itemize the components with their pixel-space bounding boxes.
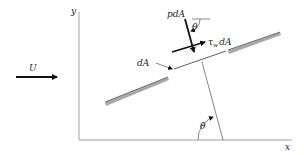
axes: y x [70, 6, 292, 152]
shear-force-arrow: τwdA [172, 37, 232, 52]
surface-element: dA [137, 51, 226, 69]
shear-force-label: τwdA [208, 37, 232, 48]
angle-top: θ [191, 19, 210, 32]
surface-plate-right [228, 32, 281, 54]
y-axis-label: y [70, 6, 77, 16]
angle-bottom: θ [198, 117, 213, 140]
element-label: dA [137, 58, 150, 68]
diagram-canvas: y x U dA pdA τwdA θ [0, 0, 304, 155]
x-axis-label: x [285, 142, 290, 152]
pressure-force-label: pdA [167, 9, 186, 19]
surface-plate-left [105, 77, 169, 106]
angle-top-label: θ [192, 22, 198, 32]
freestream-arrow: U [16, 63, 57, 77]
element-leader-line [156, 63, 172, 69]
pressure-force-arrow: pdA [167, 9, 194, 52]
freestream-label: U [29, 63, 37, 73]
angle-bottom-label: θ [200, 121, 206, 131]
